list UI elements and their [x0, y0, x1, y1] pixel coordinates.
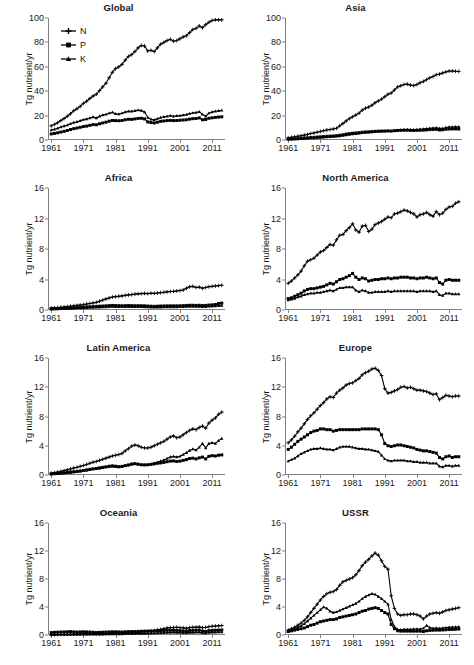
x-tick-mark [116, 635, 117, 638]
panel-title: Europe [237, 342, 474, 353]
fertilizer-nutrient-consumption-figure: GlobalTg nutrient/yr02040608010019611971… [0, 0, 474, 665]
panel-title: Asia [237, 2, 474, 13]
x-tick-mark [417, 475, 418, 478]
x-tick-label: 1981 [106, 143, 126, 153]
x-tick-label: 1991 [138, 478, 158, 488]
panel-north-america: North AmericaTg nutrient/yr0481216196119… [237, 170, 474, 340]
x-tick-label: 1971 [310, 313, 330, 323]
x-tick-label: 2001 [170, 478, 190, 488]
x-tick-label: 1991 [375, 478, 395, 488]
legend-label: N [80, 26, 87, 36]
series-layer [48, 523, 225, 635]
x-tick-mark [288, 635, 289, 638]
x-tick-mark [148, 310, 149, 313]
x-tick-mark [212, 140, 213, 143]
filled-triangle-marker [60, 54, 77, 64]
legend-entry-P: P [60, 38, 87, 52]
y-axis-label: Tg nutrient/yr [24, 552, 34, 605]
legend: NPK [60, 24, 87, 66]
series-layer [48, 358, 225, 475]
x-tick-mark [449, 140, 450, 143]
x-tick-label: 2011 [202, 638, 221, 648]
x-tick-mark [385, 635, 386, 638]
x-tick-label: 1981 [343, 143, 363, 153]
x-tick-mark [148, 140, 149, 143]
panel-title: Global [0, 2, 237, 13]
x-tick-label: 2011 [202, 313, 221, 323]
series-P [287, 427, 461, 460]
x-tick-mark [320, 140, 321, 143]
panel-title: Latin America [0, 342, 237, 353]
x-tick-label: 1961 [41, 313, 61, 323]
plot-area: 0481216196119711981199120012011 [285, 523, 462, 635]
x-tick-mark [212, 635, 213, 638]
y-axis-label: Tg nutrient/yr [261, 222, 271, 275]
x-tick-label: 1991 [375, 143, 395, 153]
y-axis-label: Tg nutrient/yr [261, 52, 271, 105]
x-tick-mark [288, 310, 289, 313]
x-tick-mark [180, 635, 181, 638]
plus-diamond-marker [60, 26, 77, 36]
x-tick-label: 1991 [138, 143, 158, 153]
y-axis-label: Tg nutrient/yr [24, 222, 34, 275]
x-tick-mark [180, 140, 181, 143]
x-tick-mark [417, 140, 418, 143]
x-tick-label: 1971 [73, 313, 93, 323]
panel-title: Oceania [0, 507, 237, 518]
legend-entry-K: K [60, 52, 87, 66]
series-K [287, 592, 461, 633]
plot-area: 0481216196119711981199120012011 [48, 188, 225, 310]
y-axis-label: Tg nutrient/yr [261, 552, 271, 605]
x-tick-label: 1961 [41, 143, 61, 153]
x-tick-label: 2001 [170, 143, 190, 153]
x-tick-label: 1971 [73, 143, 93, 153]
x-tick-label: 2011 [439, 638, 458, 648]
x-tick-mark [83, 310, 84, 313]
plot-area: 020406080100196119711981199120012011 [285, 18, 462, 140]
legend-label: P [80, 40, 86, 50]
filled-square-marker [60, 40, 77, 50]
x-tick-mark [320, 635, 321, 638]
x-tick-mark [320, 310, 321, 313]
series-layer [285, 523, 462, 635]
x-tick-mark [417, 310, 418, 313]
x-tick-mark [385, 475, 386, 478]
x-tick-label: 1981 [343, 478, 363, 488]
series-N [286, 200, 460, 285]
series-P [50, 115, 224, 135]
y-axis-label: Tg nutrient/yr [24, 52, 34, 105]
x-tick-mark [449, 635, 450, 638]
legend-entry-N: N [60, 24, 87, 38]
x-tick-mark [212, 475, 213, 478]
x-tick-label: 2011 [439, 478, 458, 488]
panel-latin-america: Latin AmericaTg nutrient/yr0481216196119… [0, 340, 237, 505]
x-tick-mark [83, 475, 84, 478]
x-tick-label: 1991 [138, 313, 158, 323]
x-tick-label: 2011 [439, 143, 458, 153]
x-tick-label: 2001 [407, 478, 427, 488]
x-tick-mark [353, 310, 354, 313]
x-tick-mark [385, 310, 386, 313]
x-tick-mark [449, 310, 450, 313]
panel-europe: EuropeTg nutrient/yr04812161961197119811… [237, 340, 474, 505]
x-tick-label: 1971 [310, 143, 330, 153]
x-tick-label: 2001 [407, 143, 427, 153]
legend-label: K [80, 54, 86, 64]
x-tick-mark [320, 475, 321, 478]
x-tick-label: 1981 [106, 638, 126, 648]
x-tick-mark [353, 475, 354, 478]
x-tick-mark [148, 475, 149, 478]
x-tick-label: 1981 [343, 638, 363, 648]
series-layer [285, 18, 462, 140]
series-K [287, 445, 461, 468]
panel-ussr: USSRTg nutrient/yr0481216196119711981199… [237, 505, 474, 665]
x-tick-mark [385, 140, 386, 143]
x-tick-label: 1971 [73, 478, 93, 488]
series-layer [48, 188, 225, 310]
x-tick-mark [51, 475, 52, 478]
panel-global: GlobalTg nutrient/yr02040608010019611971… [0, 0, 237, 170]
x-tick-mark [116, 140, 117, 143]
x-tick-label: 1961 [278, 143, 298, 153]
panel-asia: AsiaTg nutrient/yr0204060801001961197119… [237, 0, 474, 170]
x-tick-mark [148, 635, 149, 638]
